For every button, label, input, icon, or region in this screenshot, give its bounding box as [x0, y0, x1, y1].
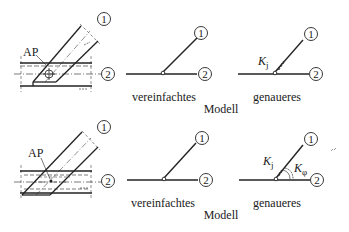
member-1-marker-bottom-refined: 1 — [305, 133, 318, 146]
caption-simplified-top: vereinfachtes — [132, 90, 196, 104]
svg-text:2: 2 — [105, 175, 111, 187]
svg-text:2: 2 — [105, 68, 111, 80]
member-1-marker-top-refined: 1 — [305, 28, 318, 41]
member-1-marker-bottom-simplified: 1 — [196, 132, 209, 145]
svg-text:2: 2 — [203, 174, 209, 186]
spring-kj-label-bottom: Kj — [262, 154, 274, 170]
member-2-marker-bottom-simplified: 2 — [200, 174, 213, 187]
ap-label-bottom: AP — [28, 146, 44, 160]
member-2-marker-bottom-detail: 2 — [102, 175, 115, 188]
spring-kj-label-top: Kj — [257, 54, 269, 70]
svg-text:1: 1 — [101, 121, 107, 133]
simplified-model-bottom — [127, 143, 198, 181]
svg-text:2: 2 — [202, 68, 208, 80]
svg-text:1: 1 — [101, 13, 107, 25]
caption-refined-top: genaueres — [253, 90, 301, 104]
svg-text:1: 1 — [198, 27, 204, 39]
member-2-marker-top-detail: 2 — [102, 68, 115, 81]
stray-mark — [331, 148, 336, 151]
ap-label-top: AP — [23, 45, 39, 59]
spring-kphi-label-bottom: Kφ — [293, 161, 307, 177]
svg-text:1: 1 — [308, 28, 314, 40]
svg-text:2: 2 — [313, 68, 319, 80]
svg-text:2: 2 — [314, 174, 320, 186]
caption-simplified-bottom: vereinfachtes — [131, 196, 195, 210]
joint-model-diagram: AP 1 2 1 2 vereinfachtes Kj 1 2 genauere… — [0, 0, 349, 232]
member-1-marker-top-detail: 1 — [98, 13, 111, 26]
member-2-marker-top-refined: 2 — [310, 68, 323, 81]
detail-bottom — [14, 131, 102, 200]
refined-model-top — [238, 40, 309, 75]
simplified-model-top — [126, 38, 197, 75]
svg-text:1: 1 — [199, 132, 205, 144]
model-label-bottom: Modell — [204, 208, 239, 222]
member-2-marker-top-simplified: 2 — [199, 68, 212, 81]
caption-refined-bottom: genaueres — [253, 196, 301, 210]
member-1-marker-top-simplified: 1 — [195, 27, 208, 40]
svg-text:1: 1 — [308, 133, 314, 145]
member-2-marker-bottom-refined: 2 — [311, 174, 324, 187]
member-1-marker-bottom-detail: 1 — [98, 121, 111, 134]
model-label-top: Modell — [204, 102, 239, 116]
